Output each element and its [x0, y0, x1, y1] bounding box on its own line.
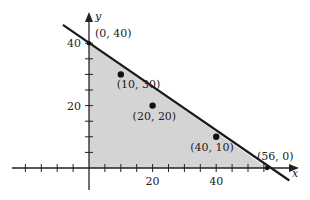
y-axis-label: y	[94, 10, 102, 23]
point-label: (20, 20)	[133, 110, 177, 123]
intercept-marker	[87, 41, 91, 45]
point-label: (10, 30)	[117, 78, 161, 91]
point-marker	[149, 102, 155, 108]
point-label: (56, 0)	[257, 150, 294, 163]
y-axis-arrow-icon	[85, 12, 93, 22]
point-label: (40, 10)	[190, 141, 234, 154]
point-label: (0, 40)	[95, 27, 132, 40]
y-tick-label: 20	[67, 100, 81, 113]
x-axis: 2040	[12, 164, 299, 188]
point-marker	[118, 71, 124, 77]
intercept-marker	[265, 166, 269, 170]
y-tick-label: 40	[67, 37, 81, 50]
point-marker	[213, 134, 219, 140]
x-tick-label: 40	[209, 175, 223, 188]
x-axis-label: x	[292, 167, 299, 180]
y-axis: 2040	[67, 12, 93, 190]
linear-programming-chart: 2040 2040 (0, 40)(10, 30)(20, 20)(40, 10…	[0, 0, 310, 200]
x-tick-label: 20	[146, 175, 160, 188]
